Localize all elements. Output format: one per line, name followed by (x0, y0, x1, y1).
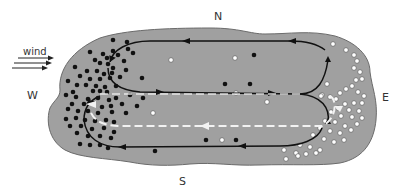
white-particle (314, 151, 319, 156)
black-particle (76, 109, 81, 114)
black-particle (78, 142, 83, 147)
white-particle (344, 48, 349, 53)
white-particle (362, 94, 367, 99)
black-particle (98, 77, 103, 82)
black-particle (124, 111, 129, 116)
white-particle (347, 108, 352, 113)
white-particle (331, 42, 336, 47)
white-particle (325, 82, 330, 87)
white-particle (356, 90, 361, 95)
white-particle (343, 124, 348, 129)
white-particle (343, 102, 348, 107)
white-particle (220, 138, 225, 143)
white-particle (308, 145, 313, 150)
black-particle (111, 38, 116, 43)
black-particle (223, 82, 228, 87)
black-particle (75, 83, 80, 88)
white-particle (358, 70, 363, 75)
white-particle (284, 157, 289, 162)
black-particle (109, 136, 114, 141)
black-particle (91, 89, 96, 94)
white-particle (352, 101, 357, 106)
white-particle (355, 122, 360, 127)
black-particle (66, 79, 71, 84)
wind-label: wind (23, 46, 47, 57)
black-particle (118, 75, 123, 80)
white-particle (342, 138, 347, 143)
lake-circulation-diagram: wind W N E S (0, 0, 400, 193)
black-particle (204, 138, 209, 143)
black-particle (90, 127, 95, 132)
black-particle (102, 72, 107, 77)
white-particle (318, 148, 323, 153)
black-particle (82, 102, 87, 107)
black-particle (135, 104, 140, 109)
black-particle (153, 149, 158, 154)
white-particle (355, 59, 360, 64)
white-particle (319, 94, 324, 99)
white-particle (354, 78, 359, 83)
wind-arrows (12, 56, 54, 71)
white-particle (350, 84, 355, 89)
black-particle (74, 95, 79, 100)
white-particle (332, 140, 337, 145)
black-particle (64, 117, 69, 122)
black-particle (66, 107, 71, 112)
black-particle (74, 116, 79, 121)
white-particle (360, 116, 365, 121)
black-particle (95, 69, 100, 74)
white-particle (344, 87, 349, 92)
east-label: E (382, 91, 389, 104)
black-particle (248, 82, 253, 87)
black-particle (103, 85, 108, 90)
white-particle (333, 120, 338, 125)
black-particle (101, 52, 106, 57)
black-particle (106, 62, 111, 67)
black-particle (116, 53, 121, 58)
white-particle (233, 56, 238, 61)
black-particle (110, 71, 115, 76)
white-particle (357, 109, 362, 114)
black-particle (96, 111, 101, 116)
white-particle (349, 128, 354, 133)
black-particle (75, 131, 80, 136)
black-particle (98, 61, 103, 66)
white-particle (322, 137, 327, 142)
black-particle (252, 53, 257, 58)
black-particle (98, 89, 103, 94)
white-particle (352, 66, 357, 71)
black-particle (112, 120, 117, 125)
black-particle (140, 76, 145, 81)
black-particle (93, 58, 98, 63)
black-particle (88, 77, 93, 82)
white-particle (282, 148, 287, 153)
white-particle (151, 111, 156, 116)
white-particle (296, 154, 301, 159)
black-particle (84, 83, 89, 88)
black-particle (107, 98, 112, 103)
black-particle (104, 118, 109, 123)
west-label: W (27, 89, 38, 102)
black-particle (68, 124, 73, 129)
south-label: S (179, 175, 186, 188)
black-particle (112, 130, 117, 135)
black-particle (85, 69, 90, 74)
black-particle (73, 65, 78, 70)
black-particle (120, 102, 125, 107)
white-particle (338, 131, 343, 136)
black-particle (98, 134, 103, 139)
black-particle (71, 90, 76, 95)
black-particle (88, 143, 93, 148)
white-particle (169, 58, 174, 63)
black-particle (64, 93, 69, 98)
white-particle (304, 152, 309, 157)
white-particle (338, 91, 343, 96)
black-particle (88, 50, 93, 55)
north-label: N (214, 10, 222, 23)
white-particle (352, 53, 357, 58)
black-particle (79, 124, 84, 129)
white-particle (328, 129, 333, 134)
black-particle (94, 84, 99, 89)
white-particle (360, 77, 365, 82)
black-particle (70, 102, 75, 107)
